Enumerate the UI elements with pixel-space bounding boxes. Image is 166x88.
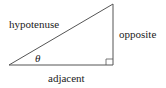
theta-angle-label: θ <box>35 52 41 64</box>
adjacent-label: adjacent <box>48 72 85 84</box>
right-triangle <box>9 4 113 65</box>
hypotenuse-label: hypotenuse <box>9 18 59 30</box>
opposite-label: opposite <box>119 28 156 40</box>
right-angle-marker <box>106 59 113 65</box>
triangle-diagram: hypotenuse opposite adjacent θ <box>0 0 166 88</box>
